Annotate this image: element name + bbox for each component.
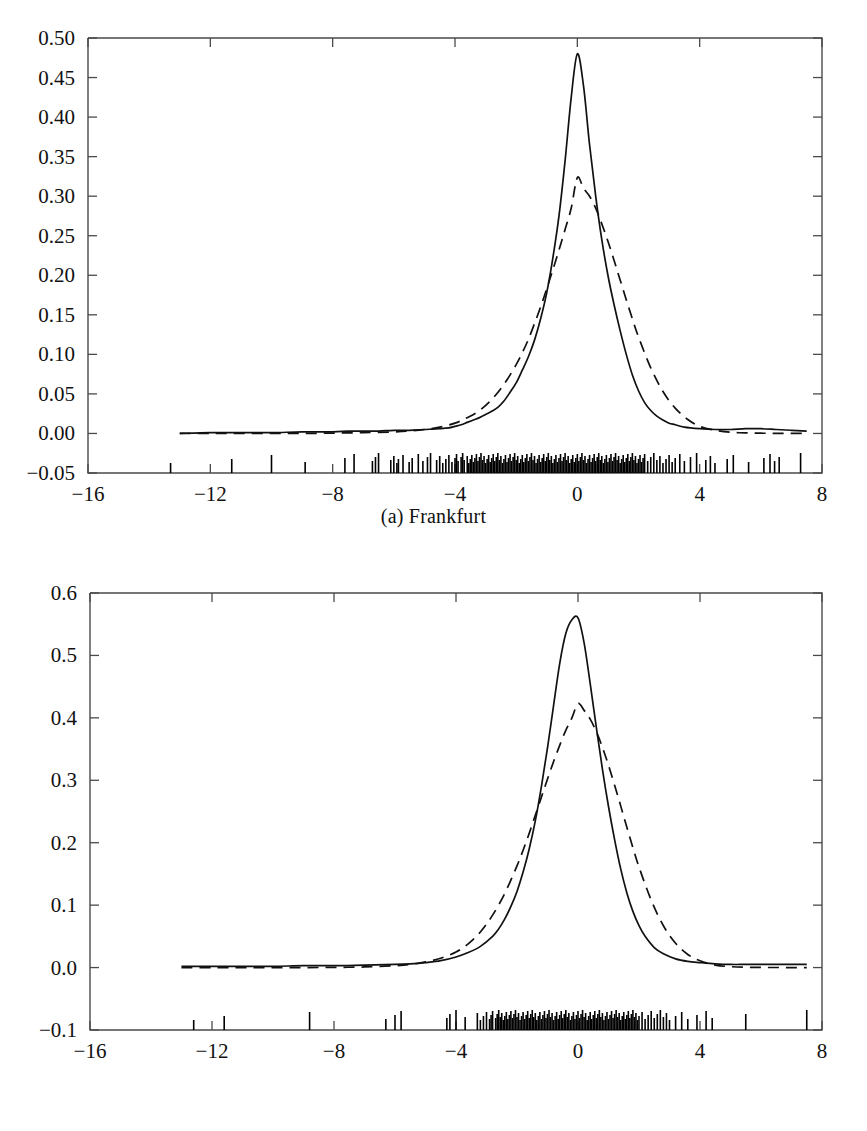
y-tick-label: 0.30 — [38, 184, 75, 208]
y-tick-label: 0.3 — [51, 768, 77, 792]
x-tick-label: 8 — [817, 1039, 828, 1063]
kernel-density-estimate — [180, 54, 807, 434]
x-tick-label: 4 — [695, 1039, 706, 1063]
x-tick-label: −12 — [196, 1039, 229, 1063]
x-tick-label: 0 — [572, 482, 583, 505]
y-tick-label: 0.6 — [51, 581, 77, 605]
y-tick-label: 0.4 — [51, 706, 78, 730]
y-tick-label: 0.45 — [38, 66, 75, 90]
y-tick-label: 0.1 — [51, 893, 77, 917]
y-tick-label: 0.5 — [51, 643, 77, 667]
fitted-normal-density — [182, 703, 807, 967]
x-tick-label: −4 — [444, 482, 467, 505]
y-tick-label: 0.40 — [38, 105, 75, 129]
x-tick-label: −12 — [194, 482, 227, 505]
x-tick-label: −16 — [72, 482, 105, 505]
y-tick-label: 0.2 — [51, 831, 77, 855]
x-tick-label: 0 — [573, 1039, 584, 1063]
x-tick-label: 8 — [817, 482, 828, 505]
figure-density-plots: −0.050.000.050.100.150.200.250.300.350.4… — [0, 0, 867, 1131]
y-tick-label: 0.05 — [38, 382, 75, 406]
footer-partial-text — [0, 1112, 867, 1126]
caption-frankfurt: (a) Frankfurt — [0, 505, 867, 528]
y-tick-label: 0.10 — [38, 342, 75, 366]
y-tick-label: −0.1 — [39, 1018, 77, 1042]
x-tick-label: −4 — [445, 1039, 468, 1063]
data-rug-marks — [194, 1010, 807, 1030]
y-tick-label: 0.50 — [38, 26, 75, 50]
y-tick-label: 0.20 — [38, 263, 75, 287]
y-tick-label: −0.05 — [26, 461, 75, 485]
data-rug-marks — [171, 453, 801, 473]
y-tick-label: 0.00 — [38, 421, 75, 445]
chart-london: −0.10.00.10.20.30.40.50.6−16−12−8−4048 — [0, 555, 867, 1068]
x-tick-label: −8 — [323, 1039, 345, 1063]
fitted-normal-density — [180, 177, 807, 433]
panel-london: −0.10.00.10.20.30.40.50.6−16−12−8−4048 (… — [0, 555, 867, 1131]
panel-frankfurt: −0.050.000.050.100.150.200.250.300.350.4… — [0, 0, 867, 560]
x-tick-label: −8 — [321, 482, 343, 505]
y-tick-label: 0.15 — [38, 303, 75, 327]
plot-frame — [88, 38, 822, 473]
y-tick-label: 0.35 — [38, 145, 75, 169]
chart-frankfurt: −0.050.000.050.100.150.200.250.300.350.4… — [0, 0, 867, 505]
y-tick-label: 0.0 — [51, 956, 77, 980]
x-tick-label: 4 — [694, 482, 705, 505]
x-tick-label: −16 — [74, 1039, 107, 1063]
y-tick-label: 0.25 — [38, 224, 75, 248]
